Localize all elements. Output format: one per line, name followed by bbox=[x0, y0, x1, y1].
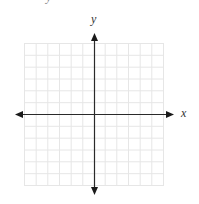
y-axis-top-arrow-icon bbox=[91, 33, 98, 41]
axes-graphic bbox=[0, 0, 199, 204]
y-axis-label: y bbox=[91, 13, 96, 25]
x-axis-label: x bbox=[181, 107, 186, 119]
x-axis-left-arrow-icon bbox=[15, 111, 23, 118]
coordinate-plane: y bbox=[0, 0, 199, 204]
x-axis-right-arrow-icon bbox=[166, 111, 174, 118]
y-axis-bottom-arrow-icon bbox=[91, 187, 98, 195]
